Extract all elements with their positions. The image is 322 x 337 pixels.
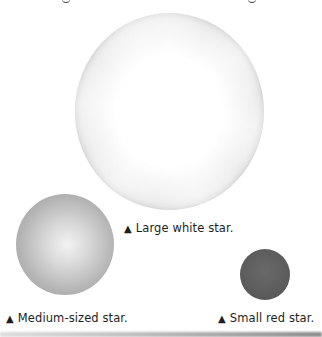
clipped-text-fragment <box>62 0 70 3</box>
clipped-text-fragment <box>248 0 256 3</box>
triangle-marker-icon: ▲ <box>6 313 14 324</box>
caption-small-star: ▲Small red star. <box>218 311 314 325</box>
small-red-star-image <box>240 249 290 300</box>
caption-text: Medium-sized star. <box>18 311 128 325</box>
large-white-star-image <box>75 13 264 210</box>
caption-text: Large white star. <box>136 221 234 235</box>
triangle-marker-icon: ▲ <box>218 313 226 324</box>
caption-large-star: ▲Large white star. <box>124 221 234 235</box>
medium-sized-star-image <box>16 194 114 295</box>
triangle-marker-icon: ▲ <box>124 223 132 234</box>
page-edge-shadow <box>0 332 322 337</box>
caption-text: Small red star. <box>230 311 314 325</box>
caption-medium-star: ▲Medium-sized star. <box>6 311 128 325</box>
